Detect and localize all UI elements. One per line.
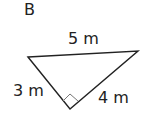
right-angle-marker (63, 94, 78, 101)
right-triangle (0, 0, 148, 131)
hypotenuse-label: 5 m (68, 31, 99, 47)
figure-label: B (24, 2, 35, 18)
left-leg-label: 3 m (13, 83, 44, 99)
right-leg-label: 4 m (98, 90, 129, 106)
